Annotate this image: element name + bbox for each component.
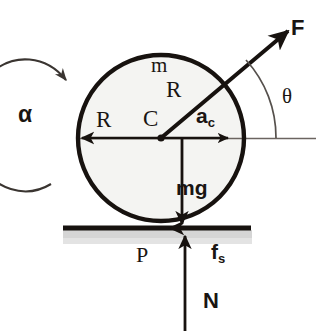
center-point-marker [157,134,164,141]
diagram-canvas [0,0,326,333]
angle-theta-label: θ [282,86,292,107]
normal-force-label: N [203,290,219,312]
friction-label: fs [211,241,225,262]
center-acceleration-label: ac [196,105,215,126]
friction-subscript: s [218,251,225,266]
angular-acceleration-arc [0,59,66,191]
accel-subscript: c [208,115,215,130]
contact-point-P-label: P [136,244,148,266]
theta-angle-arc [246,60,276,138]
accel-base: a [196,104,208,127]
force-F-label: F [291,17,304,39]
physics-diagram: F m R θ R C ac α mg P fs N [0,0,326,333]
radius-diagonal-label: R [166,78,181,101]
friction-base: f [211,240,218,263]
mass-m-label: m [151,55,167,76]
radius-left-label: R [96,108,111,131]
weight-mg-label: mg [176,177,208,198]
center-C-label: C [143,107,158,130]
angular-acceleration-label: α [18,103,32,126]
